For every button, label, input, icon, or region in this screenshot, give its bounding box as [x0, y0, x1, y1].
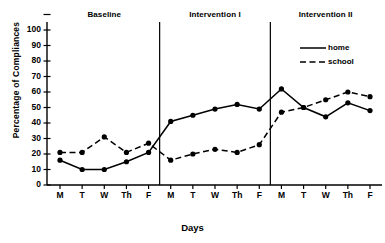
x-tick-label-13: Th: [338, 190, 358, 200]
y-tick-label-20: 20: [17, 148, 41, 158]
plot-area: [0, 0, 385, 243]
x-tick-label-1: T: [72, 190, 92, 200]
x-tick-label-10: M: [271, 190, 291, 200]
data-point-school-Th: [235, 150, 240, 155]
y-tick-label-80: 80: [17, 55, 41, 65]
y-tick-label-10: 10: [17, 164, 41, 174]
data-point-school-F: [367, 94, 372, 99]
data-point-home-T: [190, 113, 195, 118]
data-point-school-F: [257, 142, 262, 147]
data-point-home-M: [279, 86, 284, 91]
y-tick-label-50: 50: [17, 102, 41, 112]
y-tick-label-100: 100: [17, 24, 41, 34]
x-tick-label-4: F: [139, 190, 159, 200]
data-point-school-Th: [345, 89, 350, 94]
y-tick-label-60: 60: [17, 86, 41, 96]
data-point-home-F: [367, 108, 372, 113]
data-point-school-T: [301, 105, 306, 110]
x-tick-label-7: W: [205, 190, 225, 200]
data-point-school-M: [57, 150, 62, 155]
compliance-line-chart: Percentage of Compliances Days Baseline …: [0, 0, 385, 243]
data-point-home-W: [212, 106, 217, 111]
data-point-school-W: [323, 97, 328, 102]
data-point-school-W: [212, 147, 217, 152]
data-point-school-F: [146, 141, 151, 146]
x-tick-label-11: T: [294, 190, 314, 200]
data-point-home-M: [57, 158, 62, 163]
data-point-school-M: [279, 110, 284, 115]
data-point-home-Th: [124, 159, 129, 164]
x-tick-label-9: F: [249, 190, 269, 200]
x-tick-label-12: W: [316, 190, 336, 200]
data-point-home-Th: [235, 102, 240, 107]
data-point-home-T: [80, 167, 85, 172]
x-tick-label-14: F: [360, 190, 380, 200]
x-tick-label-6: T: [183, 190, 203, 200]
y-tick-label-40: 40: [17, 117, 41, 127]
data-point-home-Th: [345, 100, 350, 105]
y-tick-label-0: 0: [17, 179, 41, 189]
data-point-home-W: [323, 114, 328, 119]
data-point-home-F: [146, 150, 151, 155]
data-point-school-Th: [124, 150, 129, 155]
data-point-home-M: [168, 119, 173, 124]
data-point-school-T: [190, 151, 195, 156]
data-point-home-F: [257, 106, 262, 111]
y-tick-label-70: 70: [17, 71, 41, 81]
data-point-school-T: [80, 150, 85, 155]
y-tick-label-30: 30: [17, 133, 41, 143]
x-tick-label-5: M: [161, 190, 181, 200]
data-point-school-M: [168, 158, 173, 163]
x-tick-label-2: W: [94, 190, 114, 200]
data-point-home-W: [102, 167, 107, 172]
x-tick-label-0: M: [50, 190, 70, 200]
x-tick-label-8: Th: [227, 190, 247, 200]
data-point-school-W: [102, 134, 107, 139]
x-tick-label-3: Th: [116, 190, 136, 200]
y-tick-label-90: 90: [17, 40, 41, 50]
